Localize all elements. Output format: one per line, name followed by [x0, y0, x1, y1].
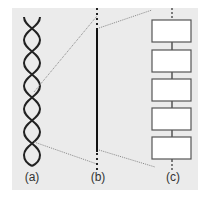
box-stack [152, 20, 191, 159]
label-b: (b) [83, 170, 113, 184]
zoom-line [99, 150, 155, 167]
double-helix [24, 17, 40, 166]
zoom-line [34, 142, 97, 164]
box [152, 79, 191, 101]
box [152, 137, 191, 159]
label-a: (a) [17, 170, 47, 184]
box [152, 108, 191, 130]
box [152, 20, 191, 42]
label-c: (c) [158, 170, 188, 184]
zoom-line [99, 10, 152, 28]
box [152, 50, 191, 72]
zoom-line [34, 16, 97, 92]
